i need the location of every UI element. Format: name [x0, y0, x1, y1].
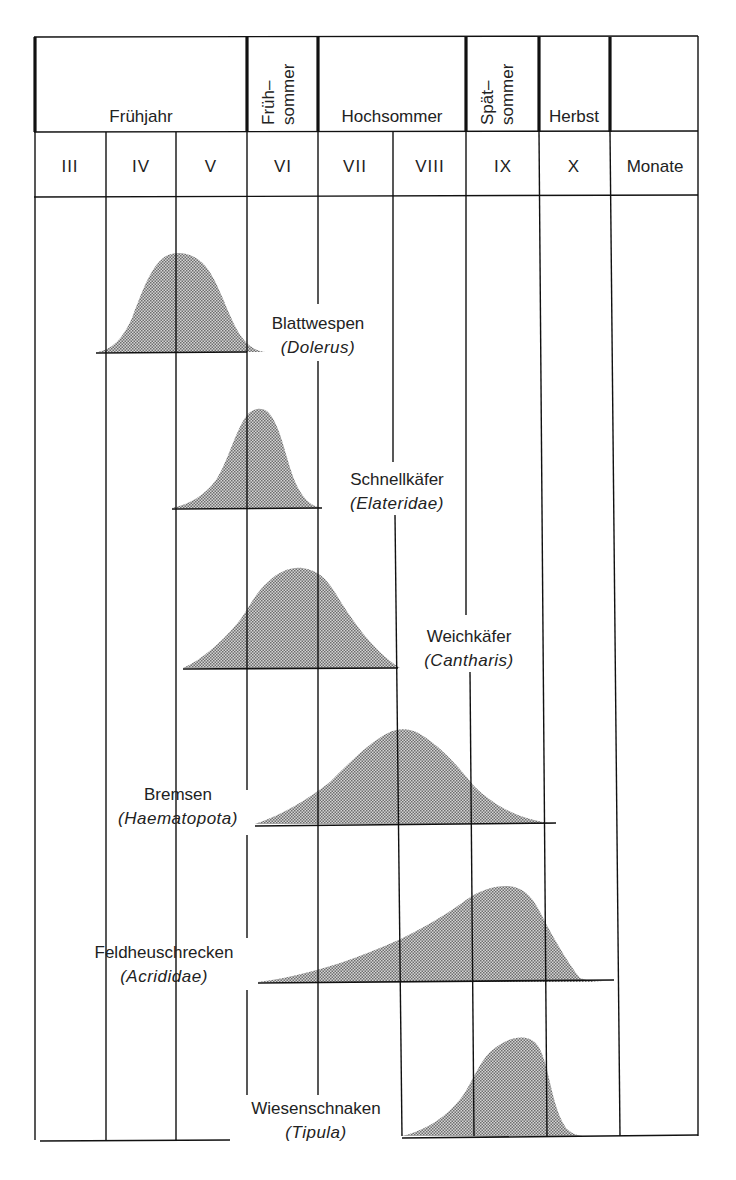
baseline-schnellkaefer [172, 508, 322, 509]
label-feldheuschrecken-sci: (Acrididae) [120, 967, 208, 986]
curve-weichkaefer [183, 568, 400, 668]
label-blattwespen-name: Blattwespen [272, 314, 365, 333]
season-labels: Frühjahr Früh– sommer Hochsommer Spät– s… [109, 63, 599, 126]
season-hochsommer: Hochsommer [341, 107, 442, 126]
month-v: V [205, 157, 217, 176]
curve-wiesenschnaken [402, 1038, 585, 1136]
season-herbst: Herbst [549, 107, 599, 126]
baseline-bottom-left [40, 1140, 230, 1141]
phenology-chart: Frühjahr Früh– sommer Hochsommer Spät– s… [0, 0, 736, 1180]
curve-feldheuschrecken [258, 886, 612, 982]
months-axis-label: Monate [627, 157, 684, 176]
month-x: X [568, 157, 580, 176]
month-vii: VII [343, 157, 367, 176]
label-bremsen-sci: (Haematopota) [118, 809, 238, 828]
baseline-weichkaefer [183, 668, 398, 669]
baseline-blattwespen [96, 352, 247, 353]
curve-blattwespen [98, 253, 265, 352]
month-iv: IV [132, 157, 150, 176]
label-wiesenschnaken-sci: (Tipula) [285, 1123, 346, 1142]
label-schnellkaefer-sci: (Elateridae) [350, 494, 444, 513]
curve-bremsen [255, 729, 556, 824]
month-gridlines [35, 132, 698, 1140]
season-spaetsommer-line1: Spät– [478, 80, 497, 125]
season-spaetsommer-line2: sommer [498, 63, 517, 125]
label-schnellkaefer-name: Schnellkäfer [350, 470, 444, 489]
label-feldheuschrecken-name: Feldheuschrecken [95, 943, 234, 962]
label-blattwespen-sci: (Dolerus) [281, 338, 355, 357]
season-fruehsommer-line1: Früh– [259, 80, 278, 125]
month-ix: IX [494, 157, 512, 176]
label-bremsen-name: Bremsen [144, 785, 212, 804]
season-fruehjahr: Frühjahr [109, 107, 173, 126]
month-iii: III [61, 157, 78, 176]
curves [98, 253, 612, 1136]
month-viii: VIII [415, 157, 445, 176]
month-vi: VI [274, 157, 292, 176]
label-weichkaefer-name: Weichkäfer [427, 627, 512, 646]
season-fruehsommer-line2: sommer [279, 63, 298, 125]
label-wiesenschnaken-name: Wiesenschnaken [251, 1099, 380, 1118]
species-labels: Blattwespen (Dolerus) Schnellkäfer (Elat… [95, 314, 514, 1142]
label-weichkaefer-sci: (Cantharis) [424, 651, 514, 670]
month-labels: III IV V VI VII VIII IX X Monate [61, 157, 683, 176]
